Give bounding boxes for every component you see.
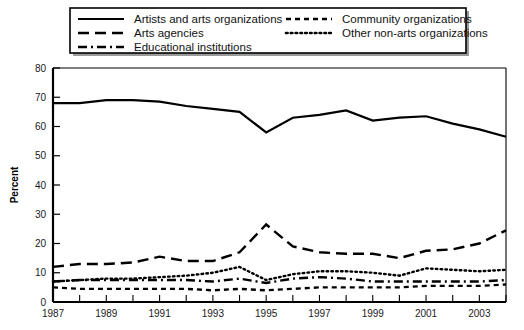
- x-tick-label: 1987: [42, 308, 65, 319]
- x-tick-label: 2001: [415, 308, 438, 319]
- y-tick-label: 60: [35, 121, 47, 132]
- x-tick-label: 1993: [202, 308, 225, 319]
- y-tick-label: 0: [40, 297, 46, 308]
- x-tick-label: 2003: [468, 308, 491, 319]
- y-tick-label: 30: [35, 209, 47, 220]
- legend-label: Educational institutions: [134, 41, 252, 53]
- x-tick-label: 1991: [148, 308, 171, 319]
- y-tick-label: 40: [35, 180, 47, 191]
- legend-label: Artists and arts organizations: [134, 13, 283, 25]
- legend-label: Arts agencies: [134, 27, 204, 39]
- y-tick-label: 20: [35, 238, 47, 249]
- x-tick-label: 1997: [308, 308, 331, 319]
- line-chart: Artists and arts organizationsArts agenc…: [0, 0, 524, 330]
- legend-label: Other non-arts organizations: [342, 27, 488, 39]
- chart-figure: Artists and arts organizationsArts agenc…: [0, 0, 524, 330]
- y-tick-label: 10: [35, 267, 47, 278]
- y-tick-label: 80: [35, 63, 47, 74]
- x-tick-label: 1999: [362, 308, 385, 319]
- x-tick-label: 1989: [95, 308, 118, 319]
- y-tick-label: 70: [35, 92, 47, 103]
- x-tick-label: 1995: [255, 308, 278, 319]
- y-tick-label: 50: [35, 150, 47, 161]
- legend-label: Community organizations: [342, 13, 472, 25]
- y-axis-title: Percent: [9, 166, 20, 203]
